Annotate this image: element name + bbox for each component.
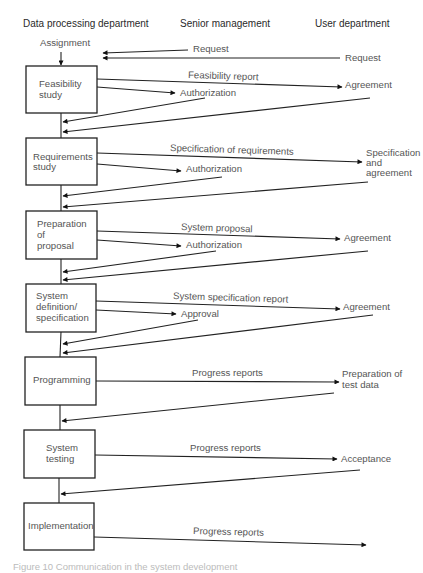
user-reply-label: Preparation of — [342, 368, 403, 379]
system-development-diagram: Data processing department Senior manage… — [0, 0, 423, 573]
user-reply-label: Agreement — [345, 79, 392, 90]
stage-label: specification — [36, 312, 89, 323]
stage-label: Programming — [33, 374, 91, 385]
report-label: System specification report — [173, 290, 289, 305]
senior-arrow — [97, 87, 175, 93]
return-arrow-user — [63, 315, 373, 353]
stage-system-definition: System definition/ specification System … — [26, 284, 390, 353]
senior-label: Authorization — [186, 163, 242, 174]
stage-programming: Programming Progress reports Preparation… — [25, 357, 403, 421]
senior-label: Authorization — [180, 87, 236, 98]
request-senior-arrow — [103, 50, 188, 53]
report-label: Progress reports — [190, 442, 261, 453]
request-user-label: Request — [345, 52, 381, 63]
stage-label: proposal — [37, 240, 74, 251]
senior-label: Approval — [181, 308, 219, 319]
stage-label: testing — [46, 453, 74, 464]
stage-system-testing: System testing Progress reports Acceptan… — [24, 430, 391, 494]
senior-arrow — [96, 310, 176, 314]
stage-label: Feasibility — [39, 78, 82, 89]
report-label: Feasibility report — [188, 69, 259, 82]
return-arrow-user — [62, 393, 334, 421]
stage-label: Preparation — [37, 218, 87, 229]
report-label: System proposal — [181, 221, 253, 234]
column-header-user-department: User department — [315, 18, 390, 29]
column-header-senior-management: Senior management — [180, 18, 270, 29]
stage-implementation: Implementation Progress reports — [24, 503, 366, 550]
report-arrow — [95, 455, 337, 459]
return-arrow-user — [63, 182, 368, 207]
user-reply-label: Agreement — [343, 301, 390, 312]
report-label: Specification of requirements — [170, 142, 294, 157]
stage-feasibility-study: Feasibility study Feasibility report Aut… — [26, 66, 392, 132]
user-reply-label: test data — [342, 379, 379, 390]
return-arrow-user — [61, 470, 360, 494]
report-label: Progress reports — [192, 367, 263, 378]
assignment-label: Assignment — [40, 37, 90, 48]
column-header-data-processing: Data processing department — [23, 18, 149, 29]
stage-preparation-of-proposal: Preparation of proposal System proposal … — [26, 211, 391, 280]
stage-label: of — [37, 229, 45, 240]
flow-line — [60, 332, 61, 357]
figure-caption: Figure 10 Communication in the system de… — [13, 561, 238, 572]
request-senior-label: Request — [193, 43, 229, 54]
senior-arrow — [97, 240, 181, 246]
stage-label: study — [33, 161, 56, 172]
stage-label: study — [39, 89, 62, 100]
user-reply-label: agreement — [366, 167, 412, 178]
stage-label: Implementation — [28, 520, 94, 531]
report-arrow — [94, 537, 366, 545]
stage-label: System — [46, 442, 78, 453]
report-label: Progress reports — [193, 525, 264, 538]
return-arrow-user — [63, 98, 370, 132]
report-arrow — [96, 381, 339, 382]
senior-label: Authorization — [186, 239, 242, 250]
senior-arrow — [97, 164, 181, 171]
user-reply-label: Acceptance — [341, 453, 391, 464]
user-reply-label: Agreement — [344, 232, 391, 243]
stage-label: System — [36, 290, 68, 301]
stage-requirements-study: Requirements study Specification of requ… — [26, 138, 420, 207]
stage-label: definition/ — [36, 301, 77, 312]
